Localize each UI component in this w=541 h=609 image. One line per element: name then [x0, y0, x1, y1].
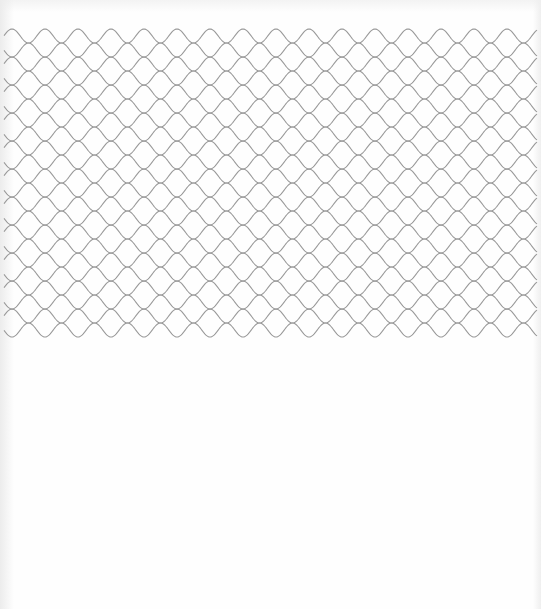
wave-line [4, 295, 537, 309]
wave-line [4, 225, 537, 239]
wave-line [4, 141, 537, 155]
wave-line [4, 127, 537, 141]
wave-line [4, 99, 537, 113]
wave-line [4, 309, 537, 323]
wave-line [4, 253, 537, 267]
wave-line [4, 43, 537, 57]
wave-lattice-pattern [0, 0, 541, 609]
wave-line [4, 281, 537, 295]
paper-background [0, 0, 541, 609]
wave-line [4, 267, 537, 281]
wave-line [4, 197, 537, 211]
wave-line [4, 155, 537, 169]
wave-line [4, 29, 537, 43]
wave-line [4, 183, 537, 197]
wave-line [4, 71, 537, 85]
wave-line [4, 169, 537, 183]
wave-line [4, 239, 537, 253]
wave-line [4, 113, 537, 127]
wave-line [4, 323, 537, 337]
wave-line [4, 57, 537, 71]
wave-line [4, 85, 537, 99]
wave-line [4, 211, 537, 225]
